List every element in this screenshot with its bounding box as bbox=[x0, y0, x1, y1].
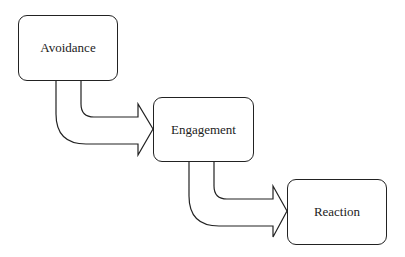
node-reaction: Reaction bbox=[287, 179, 387, 245]
node-avoidance: Avoidance bbox=[18, 15, 118, 81]
arrow-engagement-to-reaction bbox=[189, 161, 287, 237]
node-label-engagement: Engagement bbox=[171, 122, 236, 138]
node-label-avoidance: Avoidance bbox=[40, 40, 95, 56]
arrow-avoidance-to-engagement bbox=[56, 80, 153, 155]
node-engagement: Engagement bbox=[153, 97, 254, 162]
node-label-reaction: Reaction bbox=[314, 204, 360, 220]
